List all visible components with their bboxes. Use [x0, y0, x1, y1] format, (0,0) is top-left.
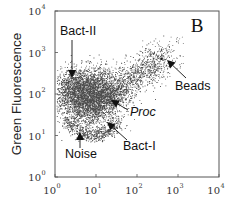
y-tick-label: 10: [28, 6, 41, 17]
y-axis-ticks: 100101102103104: [28, 3, 58, 183]
y-tick-exponent: 4: [42, 3, 46, 11]
panel-label: B: [191, 15, 204, 36]
y-axis-label: Green Fluorescence: [9, 33, 24, 155]
y-tick-label: 10: [28, 131, 41, 142]
y-tick-exponent: 1: [42, 128, 46, 136]
x-tick-label: 10: [166, 185, 179, 196]
x-tick-exponent: 3: [180, 182, 184, 190]
y-tick-label: 10: [28, 48, 41, 59]
y-tick-label: 10: [28, 89, 41, 100]
y-tick-exponent: 3: [42, 45, 46, 53]
annotation-noise: Noise: [65, 147, 97, 161]
y-tick-exponent: 0: [42, 169, 46, 177]
x-tick-label: 10: [125, 185, 138, 196]
x-tick-exponent: 1: [98, 182, 102, 190]
annotation-beads: Beads: [175, 79, 210, 93]
x-tick-label: 10: [43, 185, 56, 196]
y-tick-label: 10: [28, 172, 41, 183]
x-tick-exponent: 4: [221, 182, 225, 190]
x-tick-label: 10: [207, 185, 220, 196]
x-tick-exponent: 0: [57, 182, 61, 190]
x-tick-label: 10: [84, 185, 97, 196]
scatter-chart: 100101102103104 100101102103104 Green Fl…: [0, 0, 235, 216]
annotation-proc: Proc: [130, 105, 156, 119]
annotation-bact-i: Bact-I: [123, 139, 156, 153]
beads-point: [160, 57, 163, 60]
scatter-points: [57, 36, 184, 143]
x-tick-exponent: 2: [139, 182, 143, 190]
y-tick-exponent: 2: [42, 86, 46, 94]
annotation-bact-ii: Bact-II: [60, 24, 96, 38]
